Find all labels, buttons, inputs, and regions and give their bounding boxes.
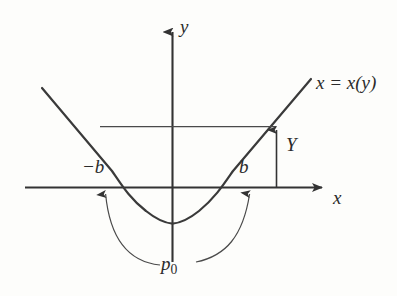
diagram-canvas xyxy=(0,0,397,296)
arc-arrow-left-root xyxy=(106,194,160,265)
x-axis-label: x xyxy=(333,188,341,207)
pressure-label: p0 xyxy=(161,254,177,277)
pressure-subscript: 0 xyxy=(171,262,178,277)
curve-equation-label: x = x(y) xyxy=(316,73,376,92)
right-root-label: b xyxy=(239,157,249,176)
arc-arrow-right-root xyxy=(196,194,250,262)
figure-container: x = x(y) y x −b b Y p0 xyxy=(0,0,397,296)
y-axis-label: y xyxy=(180,17,188,36)
depth-label: Y xyxy=(286,135,297,154)
left-root-label: −b xyxy=(82,157,104,176)
curve-x-of-y xyxy=(42,79,311,224)
pressure-symbol: p xyxy=(161,253,171,274)
